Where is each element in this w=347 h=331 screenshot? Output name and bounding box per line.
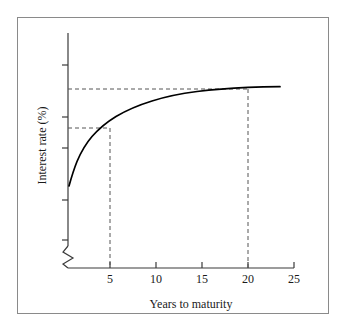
yield-curve-line bbox=[0, 0, 163, 186]
x-axis-title: Years to maturity bbox=[101, 297, 281, 312]
x-tick-label-5: 5 bbox=[95, 272, 125, 286]
x-axis-ticks bbox=[110, 262, 294, 268]
x-tick-label-15: 15 bbox=[187, 272, 217, 286]
y-axis-title: Interest rate (%) bbox=[35, 81, 50, 211]
y-axis-ticks bbox=[62, 65, 68, 240]
yield-curve bbox=[69, 87, 280, 186]
x-tick-label-25: 25 bbox=[279, 272, 309, 286]
x-tick-label-10: 10 bbox=[141, 272, 171, 286]
axis-break-zigzag bbox=[63, 246, 73, 268]
x-tick-label-20: 20 bbox=[233, 272, 263, 286]
yield-curve-figure: 5 10 15 20 25 Years to maturity Interest… bbox=[0, 0, 347, 331]
